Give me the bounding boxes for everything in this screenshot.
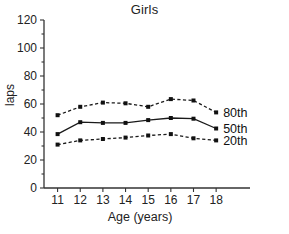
x-tick-label: 11 bbox=[51, 193, 64, 207]
data-point-marker bbox=[214, 138, 218, 142]
x-tick-label: 18 bbox=[209, 193, 223, 207]
x-tick-label: 13 bbox=[96, 193, 110, 207]
data-point-marker bbox=[191, 136, 195, 140]
x-tick-label: 12 bbox=[74, 193, 88, 207]
series-labels: 80th50th20th bbox=[223, 106, 247, 148]
series-label-20th: 20th bbox=[223, 134, 247, 148]
chart-plot-area: 020406080100120 1112131415161718 80th50t… bbox=[0, 0, 289, 234]
y-tick-label: 120 bbox=[17, 13, 37, 27]
data-point-marker bbox=[191, 99, 195, 103]
y-tick-label: 0 bbox=[30, 181, 37, 195]
x-tick-label: 17 bbox=[187, 193, 201, 207]
data-point-marker bbox=[56, 113, 60, 117]
data-point-marker bbox=[146, 105, 150, 109]
data-point-marker bbox=[101, 101, 105, 105]
x-tick-label: 16 bbox=[164, 193, 178, 207]
data-point-marker bbox=[191, 117, 195, 121]
x-tick-label: 14 bbox=[119, 193, 133, 207]
data-point-marker bbox=[169, 132, 173, 136]
data-point-marker bbox=[169, 116, 173, 120]
data-point-marker bbox=[78, 105, 82, 109]
data-point-marker bbox=[146, 134, 150, 138]
data-point-marker bbox=[101, 137, 105, 141]
y-tick-label: 80 bbox=[24, 69, 38, 83]
data-point-marker bbox=[124, 136, 128, 140]
y-tick-label: 40 bbox=[24, 125, 38, 139]
data-point-marker bbox=[56, 132, 60, 136]
data-point-marker bbox=[56, 143, 60, 147]
data-point-marker bbox=[78, 120, 82, 124]
data-point-marker bbox=[124, 121, 128, 125]
data-point-marker bbox=[214, 127, 218, 131]
series-label-80th: 80th bbox=[223, 106, 247, 120]
data-point-marker bbox=[214, 110, 218, 114]
y-tick-label: 20 bbox=[24, 153, 38, 167]
x-tick-label: 15 bbox=[142, 193, 156, 207]
y-tick-label: 100 bbox=[17, 41, 37, 55]
data-point-marker bbox=[169, 97, 173, 101]
x-axis: 1112131415161718 bbox=[44, 188, 250, 207]
data-point-marker bbox=[124, 101, 128, 105]
data-point-marker bbox=[146, 118, 150, 122]
y-axis: 020406080100120 bbox=[17, 13, 44, 195]
series-layer bbox=[56, 97, 219, 147]
data-point-marker bbox=[101, 121, 105, 125]
y-tick-label: 60 bbox=[24, 97, 38, 111]
chart-container: Girls laps Age (years) 020406080100120 1… bbox=[0, 0, 289, 234]
data-point-marker bbox=[78, 138, 82, 142]
